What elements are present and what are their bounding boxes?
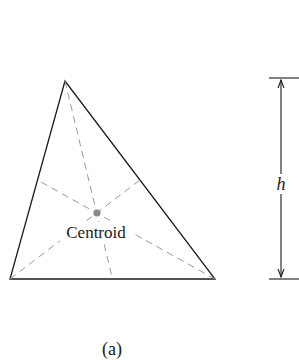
centroid-point [93,209,100,216]
centroid-label: Centroid [66,223,126,242]
figure-caption: (a) [102,339,122,360]
triangle [10,81,215,279]
height-label: h [277,174,286,194]
medians [10,81,215,279]
centroid-diagram: Centroid h (a) [0,0,299,360]
